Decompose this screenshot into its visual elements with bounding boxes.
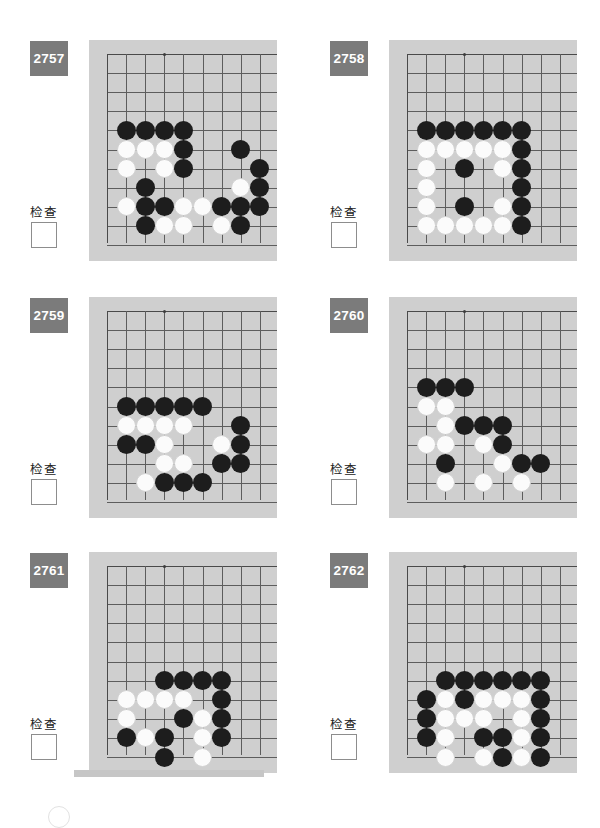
black-stone[interactable]: [474, 728, 493, 747]
white-stone[interactable]: [136, 728, 155, 747]
white-stone[interactable]: [155, 454, 174, 473]
black-stone[interactable]: [250, 159, 269, 178]
black-stone[interactable]: [417, 121, 436, 140]
black-stone[interactable]: [455, 378, 474, 397]
white-stone[interactable]: [436, 435, 455, 454]
white-stone[interactable]: [117, 690, 136, 709]
black-stone[interactable]: [512, 121, 531, 140]
black-stone[interactable]: [136, 435, 155, 454]
go-board[interactable]: [389, 297, 577, 518]
black-stone[interactable]: [231, 140, 250, 159]
black-stone[interactable]: [231, 416, 250, 435]
black-stone[interactable]: [531, 671, 550, 690]
white-stone[interactable]: [474, 216, 493, 235]
white-stone[interactable]: [493, 454, 512, 473]
black-stone[interactable]: [231, 435, 250, 454]
white-stone[interactable]: [512, 690, 531, 709]
black-stone[interactable]: [531, 709, 550, 728]
black-stone[interactable]: [136, 216, 155, 235]
white-stone[interactable]: [493, 690, 512, 709]
black-stone[interactable]: [174, 140, 193, 159]
white-stone[interactable]: [193, 197, 212, 216]
black-stone[interactable]: [136, 197, 155, 216]
black-stone[interactable]: [174, 473, 193, 492]
black-stone[interactable]: [212, 690, 231, 709]
black-stone[interactable]: [155, 748, 174, 767]
white-stone[interactable]: [174, 416, 193, 435]
black-stone[interactable]: [174, 671, 193, 690]
go-board[interactable]: [89, 552, 277, 773]
black-stone[interactable]: [512, 197, 531, 216]
black-stone[interactable]: [455, 159, 474, 178]
black-stone[interactable]: [231, 454, 250, 473]
white-stone[interactable]: [512, 728, 531, 747]
black-stone[interactable]: [474, 121, 493, 140]
white-stone[interactable]: [174, 454, 193, 473]
black-stone[interactable]: [212, 728, 231, 747]
white-stone[interactable]: [493, 159, 512, 178]
black-stone[interactable]: [212, 671, 231, 690]
white-stone[interactable]: [117, 416, 136, 435]
white-stone[interactable]: [155, 435, 174, 454]
black-stone[interactable]: [512, 159, 531, 178]
check-checkbox[interactable]: [331, 222, 357, 248]
white-stone[interactable]: [474, 435, 493, 454]
go-board[interactable]: [89, 297, 277, 518]
white-stone[interactable]: [193, 709, 212, 728]
white-stone[interactable]: [193, 728, 212, 747]
black-stone[interactable]: [193, 473, 212, 492]
black-stone[interactable]: [417, 378, 436, 397]
white-stone[interactable]: [436, 709, 455, 728]
white-stone[interactable]: [455, 709, 474, 728]
white-stone[interactable]: [136, 473, 155, 492]
black-stone[interactable]: [493, 121, 512, 140]
white-stone[interactable]: [417, 397, 436, 416]
black-stone[interactable]: [455, 671, 474, 690]
black-stone[interactable]: [531, 690, 550, 709]
black-stone[interactable]: [417, 690, 436, 709]
black-stone[interactable]: [512, 216, 531, 235]
black-stone[interactable]: [136, 178, 155, 197]
black-stone[interactable]: [193, 397, 212, 416]
white-stone[interactable]: [155, 140, 174, 159]
white-stone[interactable]: [493, 197, 512, 216]
white-stone[interactable]: [212, 435, 231, 454]
white-stone[interactable]: [436, 216, 455, 235]
check-checkbox[interactable]: [31, 222, 57, 248]
white-stone[interactable]: [136, 690, 155, 709]
white-stone[interactable]: [436, 690, 455, 709]
check-checkbox[interactable]: [31, 479, 57, 505]
white-stone[interactable]: [436, 728, 455, 747]
black-stone[interactable]: [493, 671, 512, 690]
white-stone[interactable]: [212, 216, 231, 235]
white-stone[interactable]: [455, 216, 474, 235]
black-stone[interactable]: [417, 728, 436, 747]
black-stone[interactable]: [193, 671, 212, 690]
white-stone[interactable]: [417, 159, 436, 178]
black-stone[interactable]: [455, 690, 474, 709]
black-stone[interactable]: [493, 728, 512, 747]
white-stone[interactable]: [155, 416, 174, 435]
black-stone[interactable]: [436, 671, 455, 690]
white-stone[interactable]: [193, 748, 212, 767]
go-board[interactable]: [389, 40, 577, 261]
black-stone[interactable]: [250, 178, 269, 197]
white-stone[interactable]: [474, 748, 493, 767]
black-stone[interactable]: [531, 748, 550, 767]
white-stone[interactable]: [512, 709, 531, 728]
black-stone[interactable]: [212, 709, 231, 728]
white-stone[interactable]: [174, 690, 193, 709]
black-stone[interactable]: [136, 397, 155, 416]
black-stone[interactable]: [474, 416, 493, 435]
white-stone[interactable]: [231, 178, 250, 197]
white-stone[interactable]: [417, 435, 436, 454]
white-stone[interactable]: [117, 709, 136, 728]
black-stone[interactable]: [174, 159, 193, 178]
white-stone[interactable]: [117, 197, 136, 216]
white-stone[interactable]: [155, 690, 174, 709]
black-stone[interactable]: [455, 121, 474, 140]
white-stone[interactable]: [436, 473, 455, 492]
black-stone[interactable]: [512, 454, 531, 473]
black-stone[interactable]: [117, 728, 136, 747]
black-stone[interactable]: [212, 454, 231, 473]
